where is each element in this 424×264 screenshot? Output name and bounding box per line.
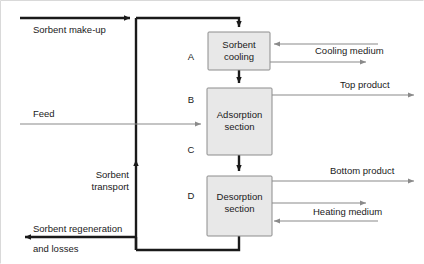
stream-label-feed: Feed — [33, 108, 55, 119]
stream-label-bottom-product: Bottom product — [330, 165, 395, 176]
unit-label-adsorption-line1: Adsorption — [217, 109, 262, 120]
unit-label-adsorption-line2: section — [224, 121, 254, 132]
process-flow-diagram: Sorbent cooling Adsorption section Desor… — [0, 0, 424, 264]
stream-label-heating-medium: Heating medium — [313, 206, 382, 217]
unit-label-desorption-line1: Desorption — [217, 191, 263, 202]
section-letter-a: A — [188, 51, 195, 62]
stream-label-sorbent-make-up: Sorbent make-up — [33, 24, 106, 35]
stream-label-cooling-medium: Cooling medium — [315, 45, 384, 56]
section-letter-c: C — [188, 144, 195, 155]
stream-desorption-to-riser — [136, 236, 239, 250]
unit-label-desorption-line2: section — [224, 203, 254, 214]
stream-label-sorbent-regeneration-line1: Sorbent regeneration — [33, 223, 122, 234]
unit-label-sorbent-cooling-line1: Sorbent — [222, 39, 256, 50]
flow-diagram-svg: Sorbent cooling Adsorption section Desor… — [0, 0, 424, 264]
section-letter-b: B — [188, 94, 194, 105]
stream-label-sorbent-regeneration-line2: and losses — [33, 243, 79, 254]
stream-label-sorbent-transport-line1: Sorbent — [96, 169, 130, 180]
section-letter-d: D — [188, 190, 195, 201]
stream-label-top-product: Top product — [340, 79, 390, 90]
stream-label-sorbent-transport-line2: transport — [92, 181, 130, 192]
unit-label-sorbent-cooling-line2: cooling — [224, 51, 254, 62]
stream-makeup-to-cooling — [136, 18, 239, 27]
